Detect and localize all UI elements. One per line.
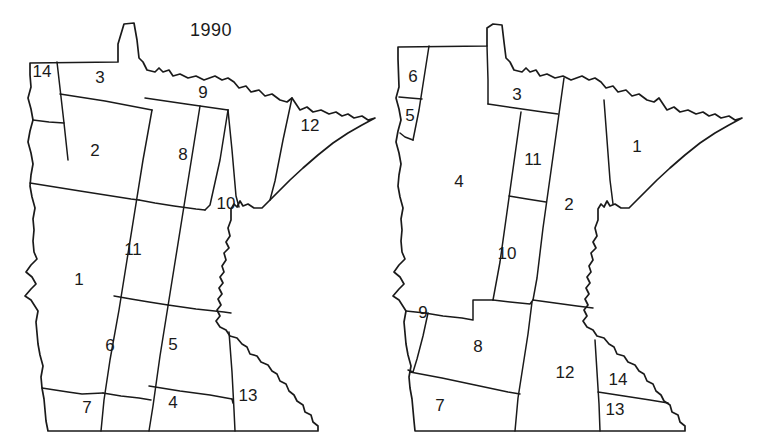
region-label-1990-13: 13 bbox=[239, 386, 258, 405]
divider-7-west bbox=[42, 388, 103, 394]
region-label-2000-12: 12 bbox=[556, 363, 575, 382]
divider-4-13 bbox=[232, 399, 233, 403]
region-label-1990-8: 8 bbox=[178, 145, 187, 164]
divider-12-1314 bbox=[595, 340, 600, 431]
divider-12-10 bbox=[270, 98, 292, 200]
region-label-1990-2: 2 bbox=[90, 141, 99, 160]
region-label-2000-4: 4 bbox=[454, 172, 463, 191]
region-label-2000-10: 10 bbox=[498, 244, 517, 263]
region-label-1990-6: 6 bbox=[105, 336, 114, 355]
region-label-2000-13: 13 bbox=[606, 400, 625, 419]
divider-2-1 bbox=[30, 183, 139, 200]
divider-6-7 bbox=[103, 393, 151, 400]
region-label-1990-14: 14 bbox=[33, 62, 52, 81]
region-label-2000-14: 14 bbox=[609, 370, 628, 389]
divider-3-2 bbox=[60, 94, 152, 110]
region-label-1990-1: 1 bbox=[74, 270, 83, 289]
region-label-1990-5: 5 bbox=[168, 335, 177, 354]
divider-1-2 bbox=[604, 100, 613, 204]
divider-8-12 bbox=[515, 302, 532, 431]
divider-11-10 bbox=[509, 196, 546, 202]
region-label-1990-4: 4 bbox=[168, 393, 177, 412]
divider-3-south bbox=[488, 104, 558, 114]
divider-3-west bbox=[487, 46, 488, 104]
region-label-2000-2: 2 bbox=[564, 195, 573, 214]
map-panel-1990: 1990 bbox=[0, 0, 379, 446]
region-label-2000-6: 6 bbox=[408, 67, 417, 86]
divider-8-bottom bbox=[139, 200, 205, 210]
divider-5-4 bbox=[149, 386, 232, 399]
region-label-2000-1: 1 bbox=[632, 137, 641, 156]
region-label-2000-9: 9 bbox=[418, 303, 427, 322]
divider-14-3 bbox=[57, 62, 68, 160]
minnesota-map-2000: 6 5 3 1 11 4 2 10 9 8 12 14 7 13 bbox=[380, 0, 759, 446]
region-label-1990-7: 7 bbox=[82, 398, 91, 417]
divider-8-7 bbox=[410, 372, 520, 394]
divider-11-6 bbox=[114, 296, 168, 305]
divider-5-north bbox=[168, 305, 231, 313]
region-label-1990-10: 10 bbox=[217, 194, 236, 213]
divider-9-10 bbox=[228, 110, 239, 207]
divider-14-bottom bbox=[33, 120, 64, 123]
divider-6-5-east bbox=[413, 46, 429, 140]
region-label-1990-12: 12 bbox=[301, 116, 320, 135]
divider-6-5 bbox=[399, 97, 422, 99]
divider-10-south bbox=[493, 300, 533, 304]
region-label-1990-9: 9 bbox=[198, 83, 207, 102]
divider-11-west bbox=[493, 112, 521, 300]
region-label-2000-11: 11 bbox=[524, 150, 542, 169]
region-label-2000-5: 5 bbox=[405, 106, 414, 125]
paired-maps-figure: 1990 bbox=[0, 0, 759, 446]
divider-2-south bbox=[533, 300, 593, 308]
region-label-2000-3: 3 bbox=[512, 85, 521, 104]
divider-11-east bbox=[149, 106, 200, 431]
divider-13-west bbox=[229, 332, 235, 431]
region-label-1990-3: 3 bbox=[95, 68, 104, 87]
divider-5-south bbox=[400, 133, 413, 140]
region-label-2000-8: 8 bbox=[473, 337, 482, 356]
minnesota-map-1990: 14 3 9 12 2 8 10 11 1 6 5 7 4 13 bbox=[0, 0, 379, 446]
divider-9-8 bbox=[145, 98, 228, 110]
region-label-2000-7: 7 bbox=[435, 396, 444, 415]
divider-11-west bbox=[101, 110, 152, 431]
region-label-1990-11: 11 bbox=[124, 240, 142, 259]
map-panel-2000: 2000 bbox=[380, 0, 759, 446]
